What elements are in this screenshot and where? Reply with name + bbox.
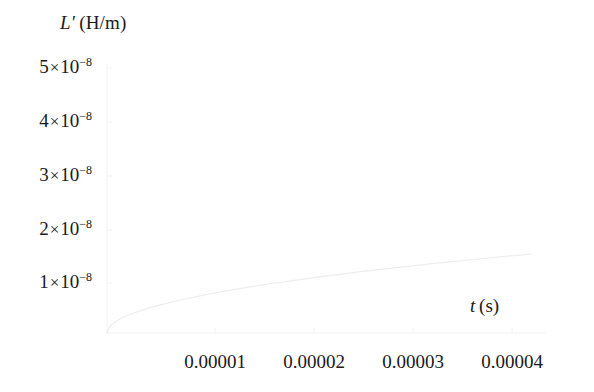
x-axis-symbol: t [470,295,475,316]
y-axis-tick-label: 3×10−8 [0,165,92,184]
x-axis-title: t (s) [470,295,499,317]
y-axis-tick-label: 4×10−8 [0,111,92,130]
x-axis-units: (s) [479,295,499,316]
chart-figure: L′ (H/m) t (s) 5×10−84×10−83×10−82×10−81… [0,0,594,392]
y-axis-tick-label: 5×10−8 [0,57,92,76]
x-axis-tick-marks [215,328,512,333]
y-axis-symbol: L [60,12,71,33]
x-axis-tick-label: 0.00004 [452,352,572,371]
y-axis-units: (H/m) [79,12,126,33]
data-series-line [107,254,531,333]
y-axis-prime: ′ [71,12,75,33]
y-axis-title: L′ (H/m) [60,12,127,34]
y-axis-tick-label: 1×10−8 [0,272,92,291]
y-axis-tick-label: 2×10−8 [0,219,92,238]
y-axis-tick-marks [107,68,112,283]
